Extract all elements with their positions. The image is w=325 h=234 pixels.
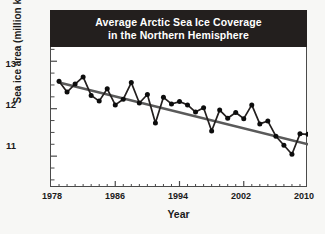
data-point [89, 93, 94, 98]
x-tick-label-1978: 1978 [32, 191, 72, 201]
data-point [273, 134, 278, 139]
data-point [81, 74, 86, 79]
chart-figure: Average Arctic Sea Ice Coverage in the N… [0, 0, 325, 234]
data-point [73, 82, 78, 87]
y-tick-label-12: 12 [0, 99, 16, 110]
data-point [185, 102, 190, 107]
y-tick-label-13: 13 [0, 58, 16, 69]
data-point [113, 102, 118, 107]
x-tick-label-1994: 1994 [158, 191, 198, 201]
chart-title-line-1: Average Arctic Sea Ice Coverage [95, 16, 261, 29]
data-point [233, 110, 238, 115]
plot-svg [51, 47, 308, 187]
data-point [209, 129, 214, 134]
data-point [289, 152, 294, 157]
data-point [193, 110, 198, 115]
trend-line [59, 83, 308, 145]
data-point [121, 97, 126, 102]
x-tick-label-2002: 2002 [221, 191, 261, 201]
data-point [105, 86, 110, 91]
x-tick-label-2010: 2010 [284, 191, 324, 201]
data-point [57, 79, 62, 84]
data-point [297, 131, 302, 136]
data-point [161, 95, 166, 100]
data-point [241, 116, 246, 121]
data-point [97, 99, 102, 104]
plot-area [50, 47, 307, 187]
data-point [129, 80, 134, 85]
data-line [59, 77, 308, 154]
data-point [153, 120, 158, 125]
chart-title-banner: Average Arctic Sea Ice Coverage in the N… [50, 10, 307, 47]
data-point [257, 121, 262, 126]
data-point [249, 102, 254, 107]
x-axis-title: Year [50, 208, 307, 220]
data-point [306, 132, 309, 137]
chart-title-line-2: in the Northern Hemisphere [108, 29, 249, 42]
data-point [137, 101, 142, 106]
data-point [265, 119, 270, 124]
y-tick-label-11: 11 [0, 140, 16, 151]
data-point [145, 92, 150, 97]
data-point [225, 116, 230, 121]
data-point [281, 143, 286, 148]
data-point [169, 101, 174, 106]
data-point [177, 99, 182, 104]
data-point [201, 105, 206, 110]
x-axis-major-ticks [115, 181, 244, 187]
x-tick-label-1986: 1986 [95, 191, 135, 201]
data-point [217, 108, 222, 113]
data-point-markers [57, 74, 308, 156]
y-axis-minor-ticks [51, 49, 55, 180]
data-point [65, 90, 70, 95]
y-axis-major-ticks [51, 61, 57, 156]
